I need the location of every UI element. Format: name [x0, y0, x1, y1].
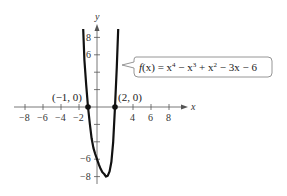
x-tick-label: −6: [37, 112, 48, 123]
y-tick-label: −6: [80, 153, 91, 164]
function-graph: x −8 −6 −4 −2 4 6 8 y: [0, 0, 287, 196]
x-axis-arrow-icon: [181, 105, 188, 110]
y-axis-arrow-icon: [95, 24, 100, 31]
point-label-2: (2, 0): [118, 91, 142, 104]
intercept-point-2: [112, 104, 118, 110]
x-tick-label: 8: [166, 112, 171, 123]
y-tick-label: −8: [80, 171, 91, 182]
x-tick-label: −4: [55, 112, 66, 123]
function-callout: f(x) = x4 − x3 + x2 − 3x − 6: [122, 57, 272, 77]
y-axis-label: y: [94, 11, 100, 22]
intercept-point-neg1: [85, 104, 91, 110]
x-tick-label: −8: [19, 112, 30, 123]
x-tick-label: 4: [130, 112, 135, 123]
y-tick-label: 8: [86, 32, 91, 43]
point-label-neg1: (−1, 0): [52, 91, 82, 104]
y-tick-label: 6: [86, 49, 91, 60]
x-tick-label: 6: [148, 112, 153, 123]
x-axis: x −8 −6 −4 −2 4 6 8: [14, 101, 196, 123]
function-label: f(x) = x4 − x3 + x2 − 3x − 6: [139, 61, 257, 74]
x-axis-label: x: [190, 101, 196, 112]
x-tick-label: −2: [73, 112, 84, 123]
